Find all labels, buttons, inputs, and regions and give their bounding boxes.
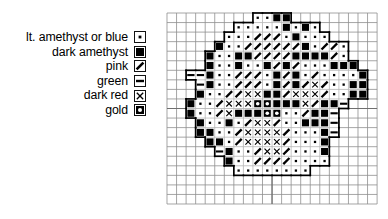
stitch-lt-amethyst	[304, 74, 306, 76]
stitch-lt-amethyst	[343, 93, 345, 95]
stitch-lt-amethyst	[323, 36, 325, 38]
stitch-lt-amethyst	[218, 74, 220, 76]
stitch-lt-amethyst	[304, 141, 306, 143]
stitch-lt-amethyst	[304, 150, 306, 152]
stitch-dark-amethyst	[302, 119, 309, 126]
filled-ring-symbol	[134, 104, 146, 116]
stitch-green	[330, 112, 337, 114]
stitch-lt-amethyst	[228, 64, 230, 66]
stitch-lt-amethyst	[228, 45, 230, 47]
stitch-lt-amethyst	[323, 64, 325, 66]
stitch-dark-amethyst	[283, 62, 290, 69]
stitch-dark-amethyst	[321, 138, 328, 145]
stitch-gold	[254, 100, 261, 107]
stitch-lt-amethyst	[333, 83, 335, 85]
stitch-lt-amethyst	[228, 55, 230, 57]
stitch-lt-amethyst	[228, 36, 230, 38]
stitch-dark-amethyst	[206, 81, 213, 88]
stitch-dark-amethyst	[197, 119, 204, 126]
stitch-dark-amethyst	[273, 100, 280, 107]
stitch-lt-amethyst	[304, 36, 306, 38]
stitch-dark-amethyst	[273, 72, 280, 79]
stitch-dark-amethyst	[292, 52, 299, 59]
stitch-lt-amethyst	[247, 150, 249, 152]
stitch-lt-amethyst	[247, 160, 249, 162]
stitch-dark-amethyst	[311, 119, 318, 126]
stitch-dark-amethyst	[340, 62, 347, 69]
legend-row-pink: pink	[0, 59, 152, 74]
stitch-lt-amethyst	[285, 36, 287, 38]
stitch-lt-amethyst	[295, 169, 297, 171]
stitch-lt-amethyst	[266, 74, 268, 76]
stitch-lt-amethyst	[276, 26, 278, 28]
stitch-lt-amethyst	[237, 122, 239, 124]
stitch-dark-amethyst	[359, 72, 366, 79]
small-dot-symbol	[134, 31, 146, 43]
stitch-lt-amethyst	[314, 160, 316, 162]
legend-label: dark red	[84, 88, 134, 103]
stitch-lt-amethyst	[323, 74, 325, 76]
stitch-dark-amethyst	[321, 110, 328, 117]
stitch-dark-amethyst	[321, 52, 328, 59]
stitch-dark-amethyst	[273, 81, 280, 88]
stitch-lt-amethyst	[199, 103, 201, 105]
stitch-dark-amethyst	[302, 24, 309, 31]
stitch-dark-amethyst	[292, 100, 299, 107]
stitch-lt-amethyst	[285, 112, 287, 114]
stitch-green	[197, 74, 204, 76]
horizontal-dash-symbol	[134, 75, 146, 87]
stitch-lt-amethyst	[218, 64, 220, 66]
x-cross-symbol	[134, 90, 146, 102]
legend-row-green: green	[0, 74, 152, 89]
stitch-lt-amethyst	[247, 36, 249, 38]
stitch-lt-amethyst	[295, 131, 297, 133]
legend-label: pink	[106, 59, 134, 74]
stitch-lt-amethyst	[333, 93, 335, 95]
stitch-dark-amethyst	[254, 110, 261, 117]
stitch-green	[216, 150, 223, 152]
stitch-lt-amethyst	[228, 74, 230, 76]
stitch-lt-amethyst	[247, 64, 249, 66]
stitch-lt-amethyst	[304, 169, 306, 171]
stitch-lt-amethyst	[218, 93, 220, 95]
stitch-green	[187, 74, 194, 76]
stitch-dark-amethyst	[187, 110, 194, 117]
stitch-dark-amethyst	[283, 14, 290, 21]
stitch-dark-amethyst	[283, 100, 290, 107]
stitch-lt-amethyst	[295, 26, 297, 28]
stitch-lt-amethyst	[304, 160, 306, 162]
legend-label: dark amethyst	[52, 45, 134, 60]
stitch-dark-amethyst	[292, 81, 299, 88]
stitch-dark-amethyst	[331, 62, 338, 69]
stitch-lt-amethyst	[333, 74, 335, 76]
stitch-dark-amethyst	[273, 14, 280, 21]
stitch-lt-amethyst	[343, 83, 345, 85]
stitch-lt-amethyst	[295, 150, 297, 152]
stitch-dark-amethyst	[206, 138, 213, 145]
stitch-dark-amethyst	[206, 62, 213, 69]
stitch-dark-amethyst	[245, 52, 252, 59]
stitch-lt-amethyst	[323, 160, 325, 162]
stitch-gold	[273, 110, 280, 117]
stitch-lt-amethyst	[257, 26, 259, 28]
stitch-lt-amethyst	[228, 83, 230, 85]
stitch-lt-amethyst	[295, 160, 297, 162]
stitch-lt-amethyst	[266, 83, 268, 85]
stitch-lt-amethyst	[209, 103, 211, 105]
stitch-dark-amethyst	[292, 72, 299, 79]
stitch-lt-amethyst	[304, 64, 306, 66]
stitch-dark-amethyst	[216, 43, 223, 50]
stitch-lt-amethyst	[343, 74, 345, 76]
legend-row-dark-red: dark red	[0, 88, 152, 103]
stitch-dark-amethyst	[359, 81, 366, 88]
stitch-lt-amethyst	[199, 112, 201, 114]
stitch-dark-amethyst	[264, 91, 271, 98]
stitch-lt-amethyst	[314, 36, 316, 38]
stitch-dark-amethyst	[321, 148, 328, 155]
stitch-dark-amethyst	[350, 81, 357, 88]
stitch-dark-amethyst	[292, 33, 299, 40]
stitch-dark-amethyst	[226, 157, 233, 164]
stitch-lt-amethyst	[247, 26, 249, 28]
stitch-lt-amethyst	[295, 122, 297, 124]
stitch-lt-amethyst	[247, 169, 249, 171]
